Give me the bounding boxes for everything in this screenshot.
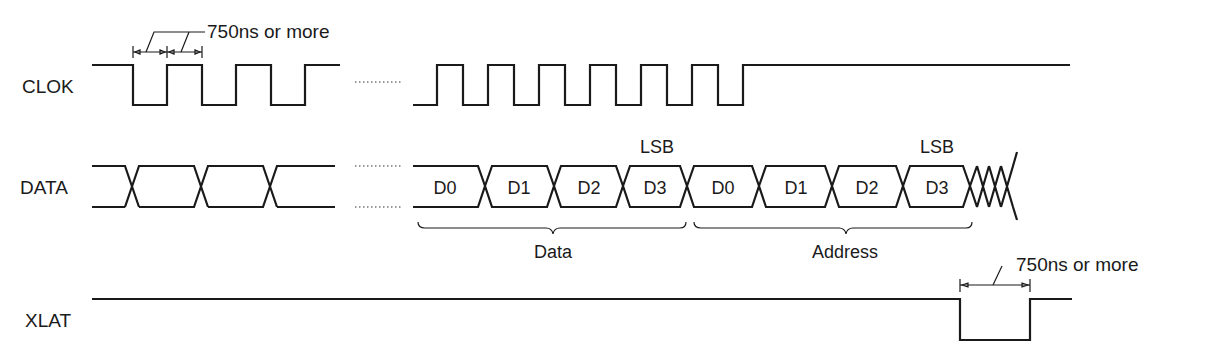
data-cell-d1: D1	[507, 178, 530, 198]
data-group-label: Data	[534, 242, 573, 262]
data-group-brace	[418, 222, 686, 234]
data-cell-d0: D0	[433, 178, 456, 198]
signal-label-data: DATA	[20, 177, 68, 198]
address-cell-d0: D0	[711, 178, 734, 198]
signal-label-clok: CLOK	[22, 76, 74, 97]
signal-label-xlat: XLAT	[25, 310, 72, 331]
lsb-label-data: LSB	[640, 137, 674, 157]
clok-timing-label: 750ns or more	[207, 21, 330, 42]
xlat-timing-label: 750ns or more	[1016, 254, 1139, 275]
address-group-brace	[694, 222, 972, 234]
timing-diagram: CLOK DATA XLAT 750ns or more D0 D1 D2 D3…	[0, 0, 1217, 361]
address-cell-d3: D3	[925, 178, 948, 198]
address-group-label: Address	[812, 242, 878, 262]
data-cell-d3: D3	[643, 178, 666, 198]
lsb-label-address: LSB	[920, 137, 954, 157]
clok-waveform-left	[92, 65, 340, 105]
address-cell-d2: D2	[855, 178, 878, 198]
data-cell-d2: D2	[577, 178, 600, 198]
xlat-waveform	[92, 299, 1072, 340]
clok-waveform-right	[413, 65, 1070, 105]
clok-timing-annotation	[133, 32, 205, 58]
data-waveform-left	[92, 166, 335, 207]
address-cell-d1: D1	[784, 178, 807, 198]
